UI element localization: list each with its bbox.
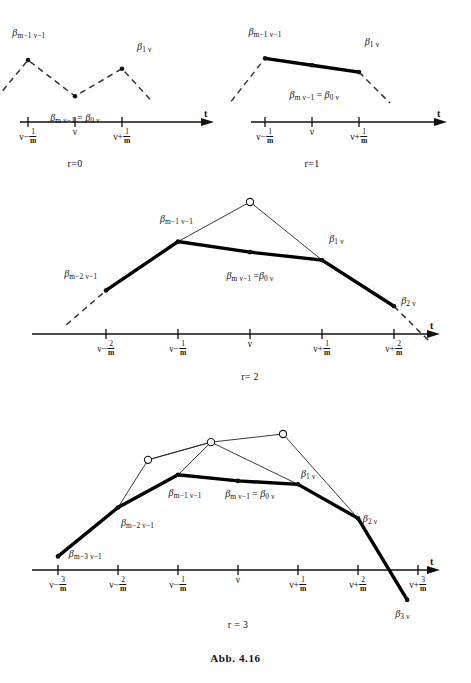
open-circle-marker (246, 198, 253, 205)
panel-r-label: r=0 (68, 158, 83, 169)
beta-label: βm−1 ν−1 (12, 28, 45, 40)
beta-label: βm ν−1= β0 ν (290, 90, 340, 102)
axis-tick-label: ν (73, 128, 77, 138)
axis-arrow-icon (434, 118, 447, 126)
axis-tick-label: ν+2m (349, 576, 366, 592)
open-circle-marker (279, 430, 286, 437)
axis-arrow-icon (201, 118, 214, 126)
dot-marker (120, 66, 125, 71)
axis-tick-label: ν+1m (113, 128, 130, 144)
axis-tick-label: ν−1m (19, 128, 36, 144)
axis-tick-label: ν−1m (169, 340, 186, 356)
axis-tick-label: ν−3m (49, 576, 66, 592)
dot-marker (26, 58, 31, 63)
beta-label: β3 ν (395, 609, 410, 621)
panel-r-label: r= 2 (241, 371, 259, 382)
axis-tick-label: ν−1m (169, 576, 186, 592)
figure-caption: Abb. 4.16 (0, 652, 471, 664)
dot-marker (263, 56, 268, 61)
thin-construction-polyline (118, 434, 358, 518)
panel-r2: ν−2mν−1mνν+1mν+2mtr= 2βm−2 ν−1βm−1 ν−1βm… (18, 186, 458, 386)
axis-tick-label: ν+2m (385, 340, 402, 356)
panel-r0-graphic (14, 18, 229, 183)
beta-label: βm ν−1=β0 ν (226, 271, 273, 283)
beta-label: βm−1 ν−1 (160, 214, 193, 226)
beta-label: βm ν−1= β0 ν (50, 113, 100, 125)
dot-marker (357, 70, 362, 75)
open-circle-marker (144, 456, 151, 463)
axis-arrow-icon (427, 566, 440, 574)
axis-tick-label: ν−1m (256, 128, 273, 144)
axis-tick-label: ν+1m (313, 340, 330, 356)
dashed-polyline (394, 306, 430, 342)
panel-r1: ν−1mνν+1mtr=1βm−1 ν−1βm ν−1= β0 νβ1 ν (245, 18, 460, 183)
beta-label: βm−1 ν−1 (248, 27, 281, 39)
dot-marker (356, 516, 361, 521)
axis-tick-label: ν+3m (409, 576, 426, 592)
beta-label: βm ν−1= β0 ν (225, 489, 275, 501)
panel-r1-graphic (245, 18, 460, 183)
beta-label: β1 ν (365, 37, 380, 49)
open-circle-marker (207, 439, 214, 446)
axis-tick-label: ν (248, 340, 252, 350)
beta-label: βm−3 ν−1 (69, 549, 102, 561)
panel-r3-graphic (18, 404, 458, 639)
beta-label: β1 ν (137, 42, 152, 54)
axis-tick-label: ν (236, 576, 240, 586)
dot-marker (296, 482, 301, 487)
axis-label-t: t (437, 108, 440, 119)
beta-label: β2 ν (401, 296, 416, 308)
dot-marker (104, 288, 109, 293)
dot-marker (176, 239, 181, 244)
axis-tick-label: ν+1m (350, 128, 367, 144)
axis-tick-label: ν (310, 128, 314, 138)
dot-marker (116, 505, 121, 510)
panel-r-label: r=1 (305, 158, 320, 169)
dashed-polyline (359, 72, 390, 103)
panel-r3: ν−3mν−2mν−1mνν+1mν+2mν+3mtr = 3βm−3 ν−1β… (18, 404, 458, 639)
dashed-polyline (66, 290, 106, 324)
axis-arrow-icon (427, 330, 440, 338)
axis-label-t: t (204, 108, 207, 119)
beta-label: β1 ν (301, 469, 316, 481)
figure-abb-4-16: ν−1mνν+1mtr=0βm−1 ν−1βm ν−1= β0 νβ1 ν ν−… (0, 0, 471, 683)
dashed-polyline (231, 58, 265, 101)
dot-marker (236, 479, 241, 484)
dot-marker (392, 304, 397, 309)
dot-marker (176, 473, 181, 478)
beta-label: βm−1 ν−1 (169, 488, 202, 500)
dot-marker (73, 94, 78, 99)
axis-tick-label: ν−2m (97, 340, 114, 356)
beta-label: βm−2 ν−1 (121, 518, 154, 530)
dot-marker (405, 598, 410, 603)
beta-label: β2 ν (363, 514, 378, 526)
axis-tick-label: ν+1m (289, 576, 306, 592)
dot-marker (248, 250, 253, 255)
dot-marker (56, 554, 61, 559)
axis-label-t: t (430, 556, 433, 567)
dot-marker (310, 63, 315, 68)
axis-tick-label: ν−2m (109, 576, 126, 592)
panel-r-label: r = 3 (228, 619, 248, 630)
axis-label-t: t (430, 320, 433, 331)
beta-label: β1 ν (329, 234, 344, 246)
beta-label: βm−2 ν−1 (64, 269, 97, 281)
dot-marker (320, 258, 325, 263)
panel-r0: ν−1mνν+1mtr=0βm−1 ν−1βm ν−1= β0 νβ1 ν (14, 18, 229, 183)
